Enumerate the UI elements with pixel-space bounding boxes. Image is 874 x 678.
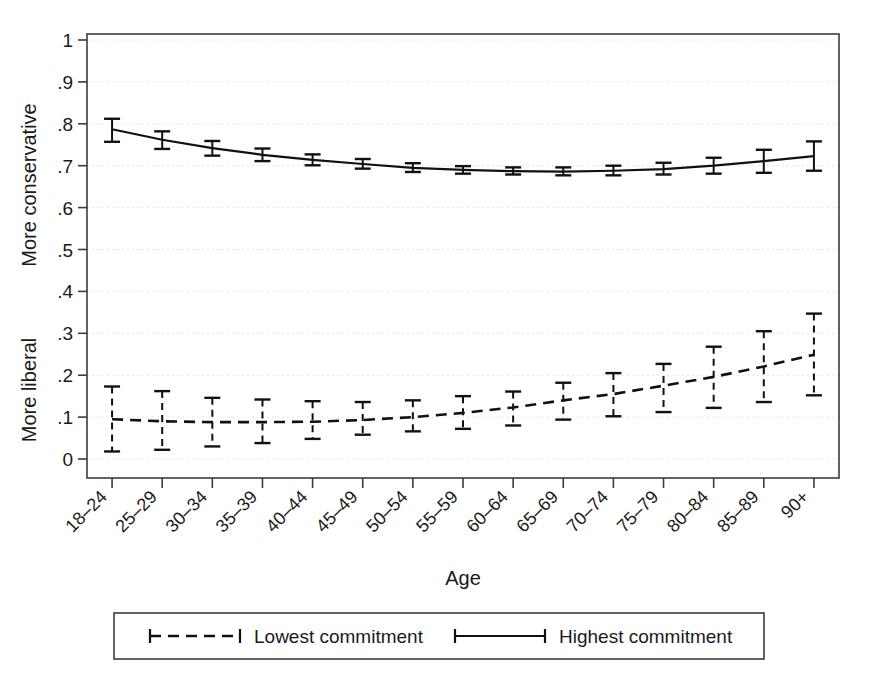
chart-svg: 0.1.2.3.4.5.6.7.8.91 18–2425–2930–3435–3… [0, 0, 874, 678]
y-tick-label-1: 1 [62, 30, 73, 51]
y-tick-label-.2: .2 [57, 365, 73, 386]
y-tick-label-.9: .9 [57, 72, 73, 93]
y-tick-label-.6: .6 [57, 198, 73, 219]
legend-label: Highest commitment [559, 626, 733, 647]
y-tick-label-.5: .5 [57, 240, 73, 261]
legend-label: Lowest commitment [254, 626, 424, 647]
y-tick-label-.3: .3 [57, 323, 73, 344]
y-tick-label-.8: .8 [57, 114, 73, 135]
figure-background [0, 0, 874, 678]
x-axis-title: Age [445, 567, 481, 589]
y-axis-title-lower: More liberal [18, 338, 40, 442]
y-axis-title-upper: More conservative [18, 103, 40, 266]
y-tick-label-.1: .1 [57, 407, 73, 428]
y-tick-label-0: 0 [62, 449, 73, 470]
chart-figure: 0.1.2.3.4.5.6.7.8.91 18–2425–2930–3435–3… [0, 0, 874, 678]
y-tick-label-.7: .7 [57, 156, 73, 177]
y-tick-label-.4: .4 [57, 281, 73, 302]
